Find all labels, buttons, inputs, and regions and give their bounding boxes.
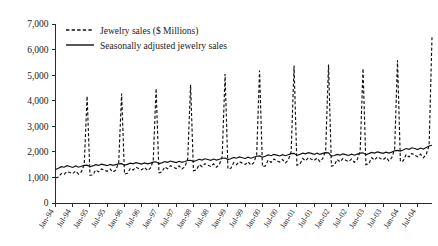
y-axis-ticks <box>52 24 56 203</box>
x-tick-label: Jan-95 <box>71 207 90 230</box>
x-tick-label: Jan-02 <box>313 207 332 230</box>
x-tick-label: Jan-98 <box>175 207 194 230</box>
legend-label: Jewelry sales ($ Millions) <box>100 26 198 37</box>
x-tick-label: Jul-04 <box>400 207 418 229</box>
x-axis-labels: Jan-94Jul-94Jan-95Jul-95Jan-96Jul-96Jan-… <box>37 207 418 230</box>
y-tick-label: 4,000 <box>27 96 49 106</box>
series-seasonally-adjusted <box>56 145 433 169</box>
chart-canvas: 01,0002,0003,0004,0005,0006,0007,000 Jan… <box>0 0 438 246</box>
x-tick-label: Jan-97 <box>140 207 159 230</box>
x-tick-label: Jan-00 <box>244 207 263 230</box>
y-axis-labels: 01,0002,0003,0004,0005,0006,0007,000 <box>27 19 49 208</box>
series-jewelry-sales <box>56 37 433 178</box>
chart-legend: Jewelry sales ($ Millions)Seasonally adj… <box>66 26 227 51</box>
y-tick-label: 7,000 <box>27 19 49 29</box>
x-tick-label: Jan-01 <box>278 207 297 230</box>
y-tick-label: 6,000 <box>27 45 49 55</box>
y-tick-label: 1,000 <box>27 173 49 183</box>
x-tick-label: Jan-96 <box>106 207 125 230</box>
legend-label: Seasonally adjusted jewelry sales <box>100 41 227 51</box>
x-tick-label: Jan-99 <box>209 207 228 230</box>
x-tick-label: Jan-04 <box>382 207 401 230</box>
x-tick-label: Jan-94 <box>37 207 56 230</box>
y-tick-label: 3,000 <box>27 122 49 132</box>
y-tick-label: 2,000 <box>27 147 49 157</box>
y-tick-label: 5,000 <box>27 71 49 81</box>
jewelry-sales-chart: 01,0002,0003,0004,0005,0006,0007,000 Jan… <box>0 0 438 246</box>
x-tick-label: Jan-03 <box>347 207 366 230</box>
y-tick-label: 0 <box>44 198 49 208</box>
